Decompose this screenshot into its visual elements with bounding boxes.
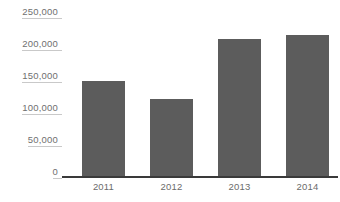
y-axis-tick: 200,000 (0, 38, 62, 51)
y-axis: 250,000 200,000 150,000 100,000 50,000 0 (0, 0, 62, 202)
y-axis-tick: 0 (0, 166, 62, 179)
y-axis-tick-label: 200,000 (22, 38, 62, 51)
x-axis-label-2011: 2011 (82, 180, 125, 193)
bar-2013 (218, 39, 261, 176)
x-axis: 2011 2012 2013 2014 (62, 180, 340, 196)
bar-2012 (150, 99, 193, 176)
bar-2014 (286, 35, 329, 176)
y-axis-tick: 100,000 (0, 102, 62, 115)
y-axis-tick-label: 250,000 (22, 6, 62, 19)
bar-2011 (82, 81, 125, 176)
bar-chart: 250,000 200,000 150,000 100,000 50,000 0… (0, 0, 340, 202)
y-axis-tick-label: 150,000 (22, 70, 62, 83)
x-axis-label-2013: 2013 (218, 180, 261, 193)
bar-series (62, 0, 340, 176)
x-axis-label-2012: 2012 (150, 180, 193, 193)
y-axis-tick: 250,000 (0, 6, 62, 19)
y-axis-tick-label: 50,000 (28, 134, 62, 147)
y-axis-tick-label: 0 (53, 166, 62, 179)
x-axis-label-2014: 2014 (286, 180, 329, 193)
plot-area: 2011 2012 2013 2014 (62, 0, 340, 202)
x-axis-line (62, 176, 338, 178)
y-axis-tick: 50,000 (0, 134, 62, 147)
y-axis-tick: 150,000 (0, 70, 62, 83)
y-axis-tick-label: 100,000 (22, 102, 62, 115)
